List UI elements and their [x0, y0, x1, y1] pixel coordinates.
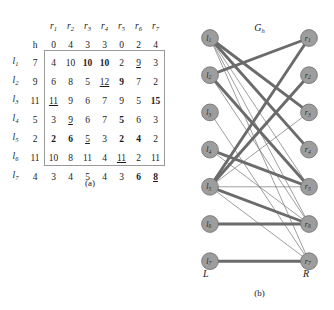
graph-node-l5[interactable]: l5 [202, 178, 219, 195]
column-header-r1-sub: 1 [54, 25, 57, 32]
matrix-cell-l4-r4: 7 [96, 110, 113, 129]
h-value-c5: 0 [113, 37, 130, 53]
graph-node-r1[interactable]: r1 [301, 30, 318, 47]
caption-panel-a: (a) [0, 178, 180, 188]
matrix-cell-l6-r1: 10 [45, 148, 62, 167]
row-header-sub: 5 [15, 136, 18, 143]
graph-node-sub-l5: 5 [209, 186, 212, 192]
matrix-cell-l6-r3: 11 [79, 148, 96, 167]
graph-node-sub-l6: 6 [209, 223, 212, 229]
matrix-cell-l3-r5: 9 [113, 91, 130, 110]
h-value-c6: 2 [130, 37, 147, 53]
matrix-cell-l6-r2: 8 [62, 148, 79, 167]
column-header-r1: r1 [45, 18, 62, 37]
graph-node-r5[interactable]: r5 [301, 178, 318, 195]
matrix-cell-l5-r5: 2 [113, 129, 130, 148]
row-header-l6: l6 [6, 148, 25, 167]
table-row: l311119679515 [6, 91, 164, 110]
matrix-cell-l1-r5: 2 [113, 53, 130, 72]
graph-node-r4[interactable]: r4 [301, 141, 318, 158]
row-header-sub: 6 [15, 155, 18, 162]
column-header-r3-sub: 3 [88, 25, 91, 32]
h-value-c4: 3 [96, 37, 113, 53]
graph-node-l6[interactable]: l6 [202, 216, 219, 233]
graph-node-sub-r7: 7 [308, 260, 311, 266]
matrix-cell-l6-r4: 4 [96, 148, 113, 167]
matrix-cell-l5-r7: 2 [147, 129, 164, 148]
matrix-cell-l3-r2: 9 [62, 91, 79, 110]
h-col-value-r4: 5 [25, 110, 45, 129]
matrix-cell-l2-r7: 2 [147, 72, 164, 91]
table-row: l522653242 [6, 129, 164, 148]
graph-node-sub-r6: 6 [308, 223, 311, 229]
row-header-sub: 3 [15, 98, 18, 105]
column-header-r3: r3 [79, 18, 96, 37]
h-col-value-r5: 2 [25, 129, 45, 148]
graph-node-sub-r4: 4 [308, 149, 311, 155]
matrix-cell-l2-r2: 8 [62, 72, 79, 91]
matrix-column-header-row: r1 r2 r3 r4 r5 r6 r7 [6, 18, 164, 37]
matrix-cell-l2-r5: 9 [113, 72, 130, 91]
graph-node-r2[interactable]: r2 [301, 67, 318, 84]
matrix-h-row: h 0 4 3 3 0 2 4 [6, 37, 164, 53]
graph-node-sub-l2: 2 [209, 74, 212, 80]
matrix-cell-l4-r6: 6 [130, 110, 147, 129]
h-row-empty-cell [6, 37, 25, 53]
matrix-cell-l3-r7: 15 [147, 91, 164, 110]
matrix-body: r1 r2 r3 r4 r5 r6 r7 h 0 4 3 3 0 2 4 [6, 18, 164, 186]
table-row: l453967563 [6, 110, 164, 129]
matrix-cell-l5-r6: 4 [130, 129, 147, 148]
matrix-cell-l1-r3: 10 [79, 53, 96, 72]
column-header-r4: r4 [96, 18, 113, 37]
matrix-cell-l4-r1: 3 [45, 110, 62, 129]
graph-node-r6[interactable]: r6 [301, 216, 318, 233]
column-header-r7: r7 [147, 18, 164, 37]
matrix-cell-l3-r3: 6 [79, 91, 96, 110]
matrix-cell-l4-r2: 9 [62, 110, 79, 129]
matrix-cell-l1-r1: 4 [45, 53, 62, 72]
column-header-r6: r6 [130, 18, 147, 37]
graph-node-l2[interactable]: l2 [202, 67, 219, 84]
graph-edge-layer [210, 38, 309, 261]
h-value-c2: 4 [62, 37, 79, 53]
matrix-cell-l1-r6: 9 [130, 53, 147, 72]
graph-node-sub-r3: 3 [307, 112, 311, 118]
h-value-c3: 3 [79, 37, 96, 53]
graph-node-l4[interactable]: l4 [202, 141, 219, 158]
row-header-l3: l3 [6, 91, 25, 110]
panel-b-graph: Gh l1l2l3l4l5l6l7r1r2r3r4r5r6r7 L R (b) [185, 0, 334, 310]
corner-empty-cell-2 [25, 18, 45, 37]
matrix-cell-l6-r7: 11 [147, 148, 164, 167]
right-side-label: R [303, 268, 309, 279]
h-value-c7: 4 [147, 37, 164, 53]
graph-node-r3[interactable]: r3 [301, 104, 318, 121]
matrix-cell-l2-r4: 12 [96, 72, 113, 91]
graph-edge-l5-r6 [210, 187, 309, 224]
graph-edge-l5-r3 [210, 112, 309, 186]
row-header-sub: 2 [15, 79, 18, 86]
bipartite-graph-svg: l1l2l3l4l5l6l7r1r2r3r4r5r6r7 [185, 0, 334, 282]
matrix-cell-l5-r1: 2 [45, 129, 62, 148]
h-value-c1: 0 [45, 37, 62, 53]
matrix-cell-l5-r2: 6 [62, 129, 79, 148]
matrix-cell-l4-r3: 6 [79, 110, 96, 129]
value-matrix-table: r1 r2 r3 r4 r5 r6 r7 h 0 4 3 3 0 2 4 [6, 18, 164, 186]
graph-node-sub-r2: 2 [308, 74, 311, 80]
h-col-value-r6: 11 [25, 148, 45, 167]
graph-node-l1[interactable]: l1 [202, 30, 219, 47]
column-header-r5: r5 [113, 18, 130, 37]
graph-node-sub-r1: 1 [308, 37, 311, 43]
column-header-r5-sub: 5 [122, 25, 125, 32]
graph-node-l3[interactable]: l3 [202, 104, 219, 121]
column-header-r6-sub: 6 [139, 25, 142, 32]
matrix-cell-l6-r5: 11 [113, 148, 130, 167]
column-header-r2: r2 [62, 18, 79, 37]
graph-node-sub-l3: 3 [208, 112, 212, 118]
matrix-cell-l1-r2: 10 [62, 53, 79, 72]
row-header-l4: l4 [6, 110, 25, 129]
matrix-cell-l2-r6: 7 [130, 72, 147, 91]
row-header-l5: l5 [6, 129, 25, 148]
column-header-r2-sub: 2 [71, 25, 74, 32]
table-row: l174101010293 [6, 53, 164, 72]
matrix-cell-l3-r6: 5 [130, 91, 147, 110]
